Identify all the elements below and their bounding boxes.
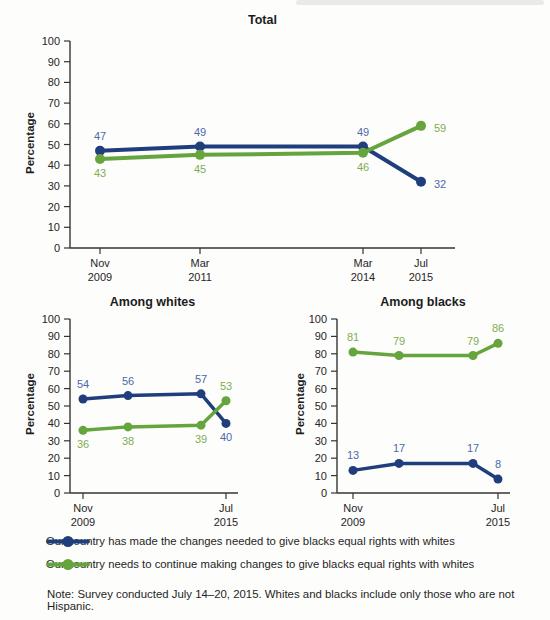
blacks-chart: 0102030405060708090100Nov2009Jul20151317… — [280, 292, 550, 530]
svg-text:79: 79 — [393, 335, 405, 347]
svg-text:60: 60 — [315, 383, 327, 395]
svg-text:Mar: Mar — [191, 257, 210, 269]
svg-text:70: 70 — [48, 365, 60, 377]
svg-text:100: 100 — [309, 313, 327, 325]
svg-text:86: 86 — [492, 322, 504, 334]
svg-text:45: 45 — [194, 163, 206, 175]
svg-text:39: 39 — [195, 433, 207, 445]
svg-text:2014: 2014 — [351, 271, 375, 283]
legend: Our country has made the changes needed … — [46, 534, 536, 580]
svg-text:79: 79 — [467, 335, 479, 347]
svg-text:60: 60 — [48, 383, 60, 395]
svg-text:20: 20 — [48, 201, 60, 213]
svg-text:30: 30 — [48, 180, 60, 192]
svg-text:59: 59 — [434, 122, 446, 134]
svg-text:2009: 2009 — [341, 516, 365, 528]
svg-text:56: 56 — [122, 375, 134, 387]
svg-text:0: 0 — [54, 242, 60, 254]
svg-text:60: 60 — [48, 118, 60, 130]
whites-chart: 0102030405060708090100Nov2009Jul20155456… — [0, 292, 280, 530]
svg-text:43: 43 — [94, 167, 106, 179]
svg-text:17: 17 — [467, 442, 479, 454]
svg-text:90: 90 — [48, 56, 60, 68]
svg-text:Mar: Mar — [354, 257, 373, 269]
blue-line-marker-icon — [46, 535, 90, 548]
svg-text:46: 46 — [357, 161, 369, 173]
svg-text:81: 81 — [347, 331, 359, 343]
figure-note: Note: Survey conducted July 14–20, 2015.… — [47, 588, 547, 612]
svg-text:100: 100 — [42, 313, 60, 325]
svg-text:40: 40 — [48, 417, 60, 429]
legend-label-continue-changes: Our country needs to continue making cha… — [46, 557, 474, 572]
svg-text:36: 36 — [77, 438, 89, 450]
svg-text:30: 30 — [315, 435, 327, 447]
svg-text:100: 100 — [42, 35, 60, 47]
svg-text:0: 0 — [321, 487, 327, 499]
svg-text:10: 10 — [48, 470, 60, 482]
legend-label-made-changes: Our country has made the changes needed … — [46, 534, 455, 549]
svg-text:Nov: Nov — [73, 502, 93, 514]
svg-text:50: 50 — [48, 400, 60, 412]
svg-text:50: 50 — [48, 139, 60, 151]
svg-text:20: 20 — [48, 452, 60, 464]
svg-text:Jul: Jul — [491, 502, 505, 514]
svg-text:8: 8 — [495, 458, 501, 470]
svg-text:40: 40 — [220, 431, 232, 443]
svg-text:70: 70 — [315, 365, 327, 377]
svg-text:49: 49 — [194, 126, 206, 138]
svg-text:80: 80 — [48, 348, 60, 360]
svg-text:17: 17 — [393, 442, 405, 454]
svg-text:Jul: Jul — [414, 257, 428, 269]
legend-item-made-changes: Our country has made the changes needed … — [46, 534, 536, 549]
svg-text:40: 40 — [48, 159, 60, 171]
svg-text:50: 50 — [315, 400, 327, 412]
svg-text:90: 90 — [315, 330, 327, 342]
green-line-marker-icon — [46, 558, 90, 571]
svg-text:Jul: Jul — [219, 502, 233, 514]
legend-item-continue-changes: Our country needs to continue making cha… — [46, 557, 536, 572]
svg-text:80: 80 — [48, 76, 60, 88]
svg-text:70: 70 — [48, 97, 60, 109]
svg-text:57: 57 — [195, 373, 207, 385]
svg-text:2009: 2009 — [88, 271, 112, 283]
svg-text:Nov: Nov — [343, 502, 363, 514]
svg-text:38: 38 — [122, 435, 134, 447]
svg-text:90: 90 — [48, 330, 60, 342]
svg-text:30: 30 — [48, 435, 60, 447]
svg-text:13: 13 — [347, 449, 359, 461]
svg-text:0: 0 — [54, 487, 60, 499]
svg-text:53: 53 — [220, 380, 232, 392]
svg-text:10: 10 — [315, 470, 327, 482]
svg-text:47: 47 — [94, 130, 106, 142]
svg-text:2009: 2009 — [71, 516, 95, 528]
svg-text:40: 40 — [315, 417, 327, 429]
svg-text:80: 80 — [315, 348, 327, 360]
svg-text:10: 10 — [48, 221, 60, 233]
svg-text:2015: 2015 — [409, 271, 433, 283]
svg-text:2011: 2011 — [188, 271, 212, 283]
svg-text:2015: 2015 — [214, 516, 238, 528]
svg-text:32: 32 — [434, 178, 446, 190]
total-chart: 0102030405060708090100Nov2009Mar2011Mar2… — [0, 0, 550, 292]
svg-text:49: 49 — [357, 126, 369, 138]
survey-figure: Total Percentage 0102030405060708090100N… — [0, 0, 550, 620]
svg-text:Nov: Nov — [90, 257, 110, 269]
svg-text:54: 54 — [77, 378, 89, 390]
svg-text:2015: 2015 — [486, 516, 510, 528]
svg-text:20: 20 — [315, 452, 327, 464]
